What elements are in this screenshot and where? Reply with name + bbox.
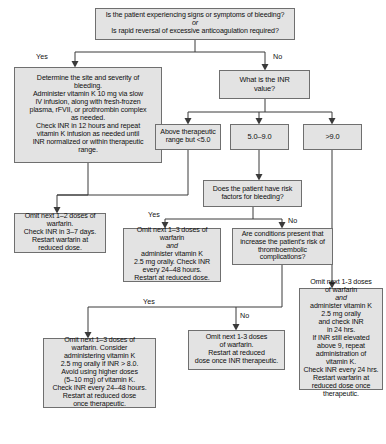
node-above-therapeutic-range: Above therapeutic range but <5.0	[155, 124, 221, 150]
edge-label-risk-yes: Yes	[148, 210, 160, 219]
node-above-therapeutic-text: Above therapeutic range but <5.0	[159, 129, 217, 145]
node-root-question: Is the patient experiencing signs or sym…	[95, 8, 295, 40]
node-bleeding-management: Determine the site and severity of bleed…	[14, 67, 162, 163]
edge-label-root-yes: Yes	[36, 52, 48, 61]
node-bleeding-management-text: Determine the site and severity of bleed…	[18, 75, 158, 154]
node-omit-1-2-doses-text: Omit next 1–2 doses of warfarin. Check I…	[18, 213, 102, 253]
flowchart-canvas: Is the patient experiencing signs or sym…	[0, 0, 386, 444]
node-inr-5-to-9-text: 5.0–9.0	[234, 133, 285, 141]
node-risk-factors-text: Does the patient have risk factors for b…	[207, 186, 298, 202]
node-inr-value-question: What is the INR value?	[219, 70, 310, 99]
node-omit-1-3-doses-consider-text: Omit next 1–3 doses of warfarin. Conside…	[47, 337, 152, 408]
node-thromboembolic-risk-question: Are conditions present that increase the…	[232, 228, 333, 265]
node-inr-greater-than-9-text: >9.0	[307, 133, 358, 141]
edge-label-thromb-no: No	[240, 311, 249, 320]
node-omit-1-3-doses-high-inr: Omit next 1-3 doses of warfarin and admi…	[299, 288, 383, 390]
node-inr-5-to-9: 5.0–9.0	[230, 124, 289, 150]
node-omit-1-2-doses: Omit next 1–2 doses of warfarin. Check I…	[14, 213, 106, 253]
node-inr-value-text: What is the INR value?	[223, 76, 306, 93]
edge-label-root-no: No	[273, 52, 282, 61]
node-omit-1-3-doses-vitamin-k: Omit next 1–3 doses of warfarin and admi…	[123, 228, 221, 282]
node-omit-1-3-doses-vitamin-k-text: Omit next 1–3 doses of warfarin and admi…	[127, 227, 217, 283]
node-omit-1-3-doses-consider-vitamin-k: Omit next 1–3 doses of warfarin. Conside…	[43, 338, 156, 408]
node-root-text: Is the patient experiencing signs or sym…	[99, 12, 291, 36]
node-thromboembolic-risk-text: Are conditions present that increase the…	[236, 231, 329, 263]
edge-bleeding-to-omit12	[57, 163, 88, 207]
node-omit-1-3-doses-restart: Omit next 1-3 doses of warfarin. Restart…	[188, 330, 285, 370]
node-risk-factors-question: Does the patient have risk factors for b…	[203, 180, 302, 207]
node-omit-1-3-doses-restart-text: Omit next 1-3 doses of warfarin. Restart…	[192, 334, 281, 366]
node-inr-greater-than-9: >9.0	[303, 124, 362, 150]
edge-label-thromb-yes: Yes	[143, 297, 155, 306]
edge-label-risk-no: No	[288, 216, 297, 225]
node-omit-1-3-doses-high-inr-text: Omit next 1-3 doses of warfarin and admi…	[303, 279, 379, 398]
